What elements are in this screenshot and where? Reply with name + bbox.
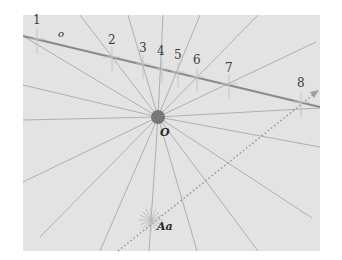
point-label-8: 8 (297, 76, 305, 90)
point-label-7: 7 (225, 61, 233, 75)
point-label-2: 2 (108, 33, 116, 47)
line-label-o: o (58, 28, 64, 39)
diagram-panel (23, 15, 320, 251)
center-label-o: O (160, 126, 170, 139)
point-label-4: 4 (157, 44, 165, 58)
point-label-6: 6 (193, 53, 201, 67)
source-label-aa: Aa (156, 220, 173, 233)
point-label-1: 1 (33, 13, 41, 27)
center-point-o (151, 110, 165, 124)
point-label-5: 5 (174, 48, 182, 62)
perspective-diagram: 1 o 2 3 4 5 6 7 8 O Aa (0, 0, 342, 260)
point-label-3: 3 (139, 41, 147, 55)
